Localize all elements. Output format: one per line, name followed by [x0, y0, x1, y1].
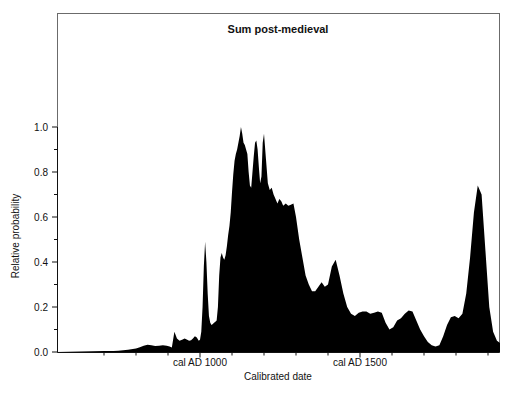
y-axis-title: Relative probability [10, 194, 21, 279]
y-tick-label-1.0: 1.0 [34, 122, 48, 133]
chart-figure: Sum post-medieval 0.00.20.40.60.81.0 Rel… [0, 0, 512, 394]
y-tick-label-0.6: 0.6 [34, 212, 48, 223]
x-tick-label-1500: cal AD 1500 [333, 357, 387, 368]
y-tick-label-0.4: 0.4 [34, 257, 48, 268]
y-tick-label-0.8: 0.8 [34, 167, 48, 178]
x-axis-title: Calibrated date [244, 371, 312, 382]
chart-title: Sum post-medieval [228, 23, 329, 35]
y-tick-label-0.2: 0.2 [34, 302, 48, 313]
x-tick-label-1000: cal AD 1000 [173, 357, 227, 368]
y-tick-label-0.0: 0.0 [34, 347, 48, 358]
